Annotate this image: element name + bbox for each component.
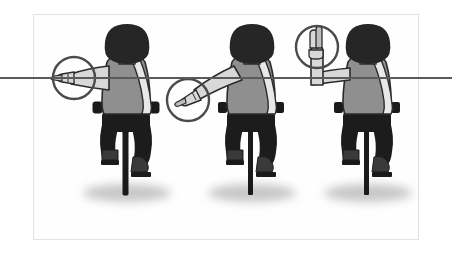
pedal-left: [342, 160, 360, 165]
shoe-left: [102, 150, 118, 160]
pedal-right: [372, 172, 392, 177]
cyclist-middle: [167, 24, 284, 195]
shoe-left: [227, 150, 243, 160]
hand-pointing-down-left: [175, 90, 201, 106]
bike-grip-left: [334, 102, 343, 113]
ground-shadows: [83, 184, 412, 202]
pedal-left: [226, 160, 244, 165]
illustration-canvas: [0, 0, 452, 255]
shoe-left: [343, 150, 359, 160]
hand-raised-up: [309, 26, 323, 59]
hair: [346, 24, 391, 64]
bike-grip-left: [218, 102, 227, 113]
hair: [230, 24, 275, 64]
cyclist-left: [51, 24, 159, 195]
cyclist-right: [296, 24, 400, 195]
bike-grip-left: [93, 102, 102, 113]
pedal-left: [101, 160, 119, 165]
bicycle-hand-signals-figure: [0, 0, 452, 255]
hair: [105, 24, 150, 64]
pedal-right: [256, 172, 276, 177]
pedal-right: [131, 172, 151, 177]
